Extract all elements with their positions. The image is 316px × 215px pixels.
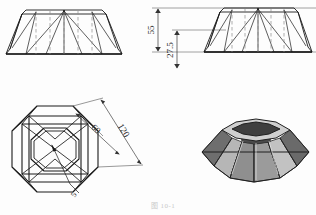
- figure-caption: 图 10-1: [128, 202, 198, 211]
- dimensioned-elevation-facets: [208, 9, 306, 52]
- plan-leader-line-thickness: [52, 145, 79, 193]
- dimension-120-label: 120: [116, 122, 132, 140]
- dimension-27-5: [174, 31, 180, 69]
- dimension-27-5-label: 27.5: [165, 42, 175, 58]
- dimension-extension-lines: [152, 8, 316, 52]
- view-front-elevation: [2, 2, 128, 66]
- front-elevation-facets: [10, 11, 116, 54]
- dimensioned-elevation-apex-marks: [257, 8, 259, 10]
- view-dimensioned-elevation: 55 27.5: [146, 0, 316, 70]
- dimension-55: [155, 9, 161, 52]
- front-elevation-apex-marks: [63, 10, 65, 12]
- view-plan: 5 60 120: [0, 92, 160, 215]
- plan-leader-arrow-thickness: [51, 144, 56, 151]
- view-isometric: [196, 108, 316, 200]
- dimension-120-line: [73, 98, 143, 167]
- drawing-sheet: 55 27.5: [0, 0, 316, 215]
- dimension-55-label: 55: [146, 25, 156, 35]
